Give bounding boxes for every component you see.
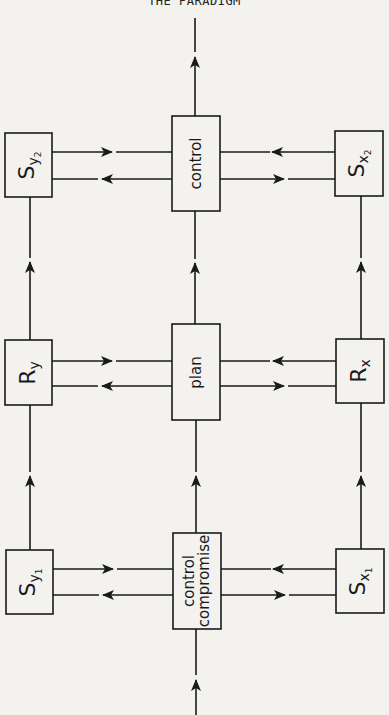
control-box xyxy=(172,116,220,211)
rx-box xyxy=(336,339,384,403)
sx2-box xyxy=(335,131,383,196)
sy1-box xyxy=(6,550,53,614)
paradigm-diagram xyxy=(0,0,389,715)
sx1-box xyxy=(336,549,384,613)
ry-box xyxy=(5,340,52,405)
sy2-box xyxy=(5,133,52,197)
control-compromise-box xyxy=(173,533,221,629)
plan-box xyxy=(172,324,220,420)
